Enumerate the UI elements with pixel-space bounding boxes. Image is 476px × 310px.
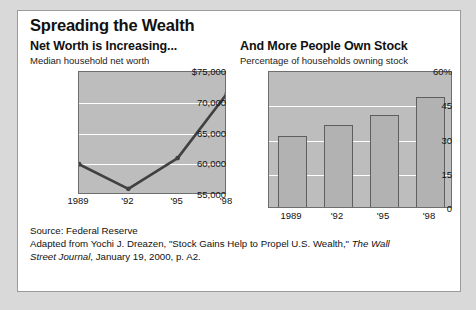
x-axis-tick-label: '92 bbox=[107, 195, 147, 206]
y-axis-tick-label: 30 bbox=[428, 134, 452, 145]
credit-italic-1: The Wall bbox=[352, 238, 390, 249]
bar-98 bbox=[416, 97, 445, 208]
chart-subtitle-net-worth: Median household net worth bbox=[30, 55, 226, 66]
y-axis-tick-label: $75,000 bbox=[182, 66, 226, 77]
chart-subtitle-stock-ownership: Percentage of households owning stock bbox=[240, 55, 452, 66]
chart-stock-ownership: And More People Own Stock Percentage of … bbox=[240, 39, 452, 226]
figure-panel: Spreading the Wealth Net Worth is Increa… bbox=[17, 10, 461, 292]
credit-italic-2: Street Journal bbox=[30, 251, 90, 262]
y-axis-tick-label: 65,000 bbox=[182, 127, 226, 138]
chart-net-worth: Net Worth is Increasing... Median househ… bbox=[30, 39, 226, 211]
y-axis-tick-label: 15 bbox=[428, 168, 452, 179]
y-axis-tick-label: 70,000 bbox=[182, 96, 226, 107]
credit-suffix: , January 19, 2000, p. A2. bbox=[90, 251, 200, 262]
chart-title-stock-ownership: And More People Own Stock bbox=[240, 39, 452, 53]
y-axis-tick-label: 60% bbox=[428, 66, 452, 77]
bar-92 bbox=[324, 125, 353, 208]
x-axis-tick-label: 1989 bbox=[268, 210, 314, 221]
y-axis-tick-label: 60,000 bbox=[182, 158, 226, 169]
credit-prefix: Adapted from Yochi J. Dreazen, "Stock Ga… bbox=[30, 238, 352, 249]
data-point-95 bbox=[175, 156, 180, 161]
x-axis-tick-label: '95 bbox=[157, 195, 197, 206]
x-axis-tick-label: '92 bbox=[314, 210, 360, 221]
figure-footnote: Source: Federal Reserve Adapted from Yoc… bbox=[30, 224, 450, 264]
bar-95 bbox=[370, 115, 399, 208]
page-title: Spreading the Wealth bbox=[30, 16, 194, 35]
bar-1989 bbox=[278, 136, 307, 208]
credit-line: Adapted from Yochi J. Dreazen, "Stock Ga… bbox=[30, 237, 450, 263]
y-axis-tick-label: 45 bbox=[428, 100, 452, 111]
x-axis-tick-label: '95 bbox=[360, 210, 406, 221]
plot-area-net-worth: $75,00070,00065,00060,00055,0001989'92'9… bbox=[30, 71, 226, 211]
data-point-92 bbox=[126, 186, 131, 191]
x-axis-tick-label: 1989 bbox=[58, 195, 98, 206]
x-axis-tick-label: '98 bbox=[406, 210, 452, 221]
chart-title-net-worth: Net Worth is Increasing... bbox=[30, 39, 226, 53]
source-line: Source: Federal Reserve bbox=[30, 224, 450, 237]
plot-area-stock-ownership: 60%45301501989'92'95'98 bbox=[240, 71, 452, 226]
plot-frame bbox=[268, 71, 452, 208]
